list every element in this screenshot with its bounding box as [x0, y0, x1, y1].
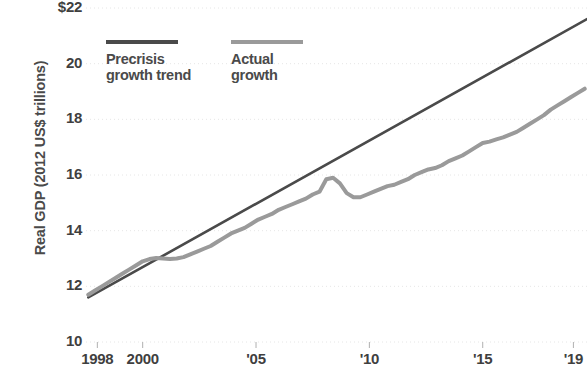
y-axis-tick-label: $22 [38, 0, 82, 15]
legend-label-line-1: Actual [231, 51, 319, 67]
legend-label-actual-growth: Actual growth [231, 51, 319, 83]
legend-label-line-2: growth [231, 67, 319, 83]
legend-label-precrisis-growth-trend: Precrisis growth trend [106, 51, 194, 83]
y-axis-tick-label: 18 [38, 109, 82, 126]
legend-swatch-precrisis-growth-trend [106, 40, 178, 44]
x-axis-tick-label: '19 [564, 350, 583, 367]
y-axis-tick-label: 10 [38, 332, 82, 349]
y-axis-tick-label: 20 [38, 54, 82, 71]
legend-swatch-actual-growth [231, 40, 303, 44]
x-axis-tick-label: 2000 [127, 350, 159, 367]
y-axis-tick-label: 16 [38, 165, 82, 182]
x-axis-tick-label: '15 [473, 350, 492, 367]
chart-legend: Precrisis growth trend Actual growth [106, 40, 319, 83]
x-axis-tick-label: 1998 [81, 350, 113, 367]
y-axis-tick-labels: $22201816141210 [30, 0, 82, 382]
legend-label-line-2: growth trend [106, 67, 194, 83]
x-axis-tick-label: '10 [360, 350, 379, 367]
y-axis-tick-label: 12 [38, 276, 82, 293]
legend-entry-precrisis-growth-trend: Precrisis growth trend [106, 40, 194, 83]
x-axis-tick-label: '05 [246, 350, 265, 367]
x-axis-tick-marks [97, 342, 573, 348]
gdp-line-chart: Real GDP (2012 US$ trillions) $222018161… [0, 0, 587, 382]
legend-label-line-1: Precrisis [106, 51, 194, 67]
legend-entry-actual-growth: Actual growth [231, 40, 319, 83]
y-axis-tick-label: 14 [38, 221, 82, 238]
